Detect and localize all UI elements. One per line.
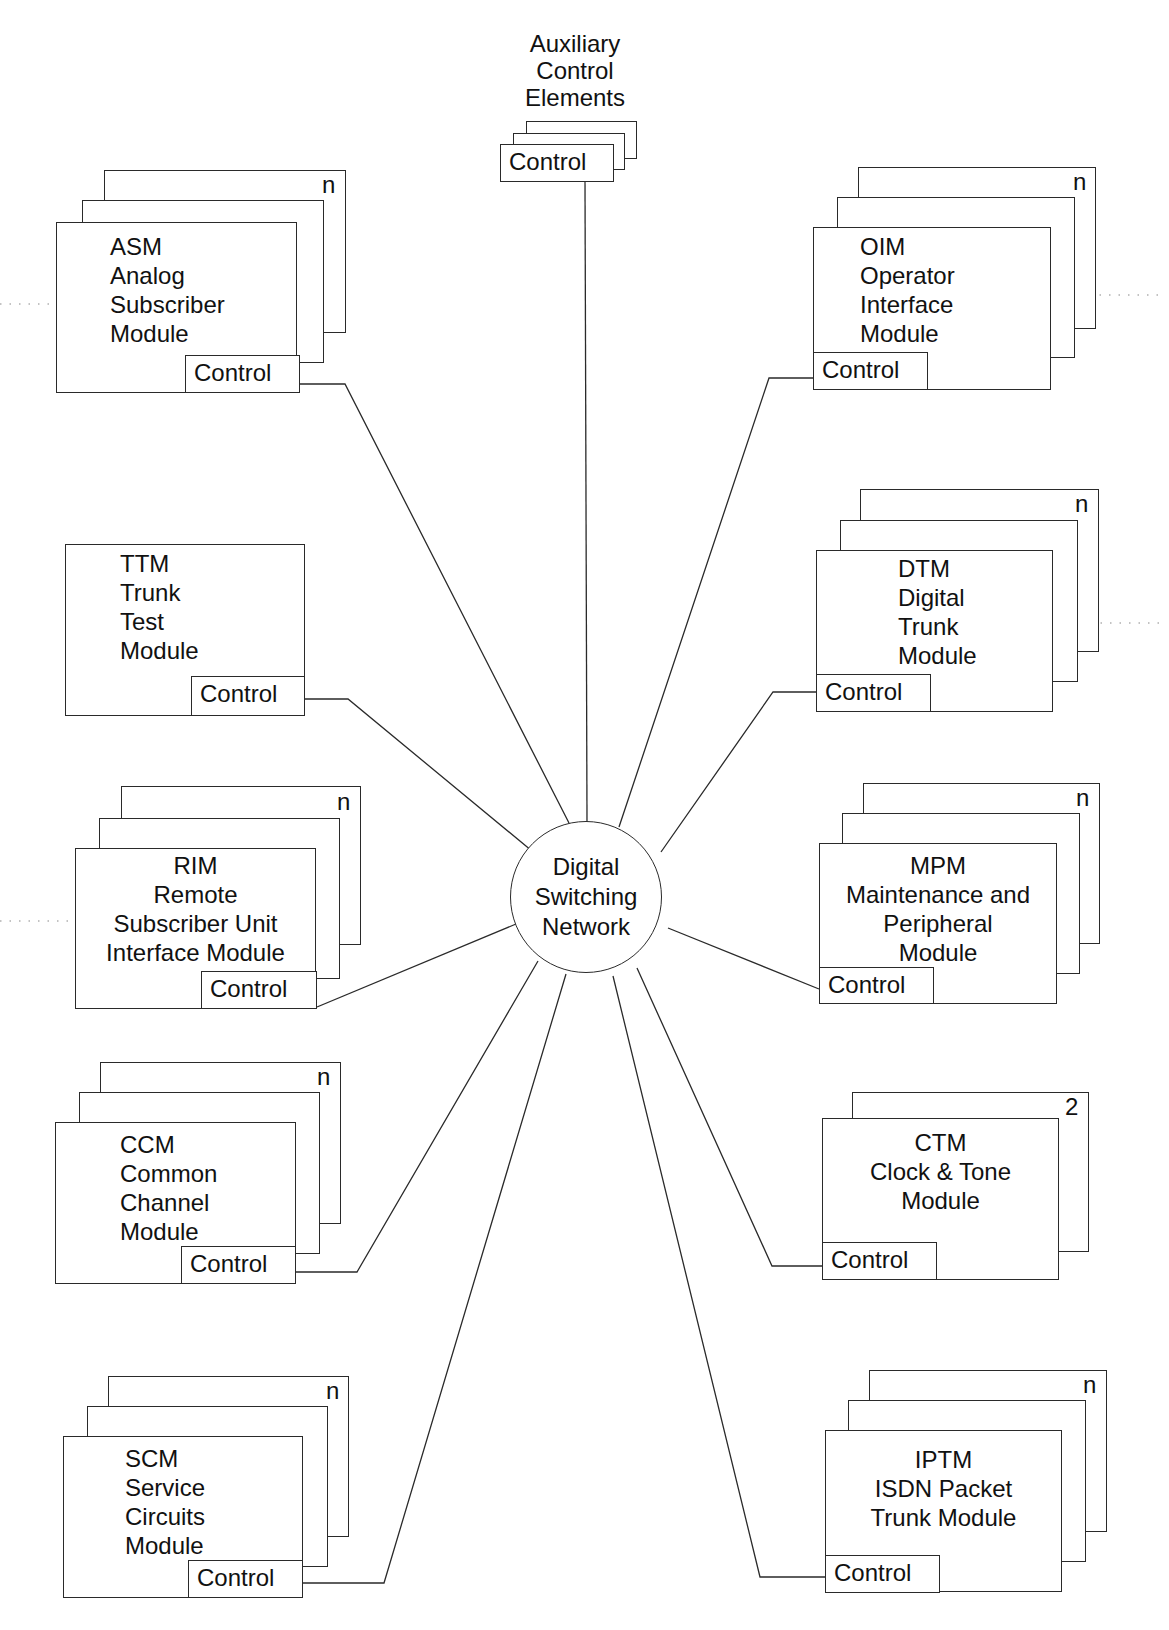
rim-instance-count: n bbox=[337, 789, 357, 815]
asm-control-box: Control bbox=[185, 355, 300, 393]
auxiliary-control-box: Control bbox=[500, 144, 614, 182]
ttm-title: TTM Trunk Test Module bbox=[120, 549, 230, 669]
rim-control-box: Control bbox=[201, 971, 317, 1009]
ctm-control-box: Control bbox=[822, 1242, 937, 1280]
scm-title: SCM Service Circuits Module bbox=[125, 1444, 245, 1564]
mpm-control-box: Control bbox=[819, 967, 934, 1004]
mpm-to-hub-connector bbox=[668, 928, 819, 989]
oim-control-box: Control bbox=[813, 352, 928, 390]
ctm-to-hub-connector bbox=[637, 968, 822, 1266]
ccm-instance-count: n bbox=[317, 1064, 337, 1090]
telephone-switch-architecture-diagram: Auxiliary Control ElementsControlnASM An… bbox=[0, 0, 1169, 1630]
iptm-to-hub-connector bbox=[613, 976, 825, 1577]
hub-label: Digital Switching Network bbox=[535, 852, 638, 942]
scm-control-box: Control bbox=[188, 1560, 303, 1598]
auxiliary-title: Auxiliary Control Elements bbox=[500, 30, 650, 115]
iptm-instance-count: n bbox=[1083, 1372, 1103, 1398]
ccm-title: CCM Common Channel Module bbox=[120, 1130, 240, 1250]
oim-title: OIM Operator Interface Module bbox=[860, 232, 990, 352]
digital-switching-network-hub: Digital Switching Network bbox=[510, 821, 662, 973]
oim-to-hub-connector bbox=[619, 378, 813, 827]
asm-instance-count: n bbox=[322, 172, 342, 198]
aux-to-hub-connector bbox=[585, 182, 587, 822]
ctm-title: CTM Clock & Tone Module bbox=[822, 1128, 1059, 1228]
dtm-to-hub-connector bbox=[661, 692, 816, 852]
mpm-title: MPM Maintenance and Peripheral Module bbox=[819, 851, 1057, 967]
asm-title: ASM Analog Subscriber Module bbox=[110, 232, 240, 352]
mpm-instance-count: n bbox=[1076, 785, 1096, 811]
rim-title: RIM Remote Subscriber Unit Interface Mod… bbox=[75, 851, 316, 971]
asm-to-hub-connector bbox=[300, 384, 569, 823]
ctm-instance-count: 2 bbox=[1065, 1094, 1085, 1120]
oim-instance-count: n bbox=[1073, 169, 1093, 195]
ccm-control-box: Control bbox=[181, 1246, 296, 1284]
scm-instance-count: n bbox=[326, 1378, 346, 1404]
ttm-control-box: Control bbox=[191, 676, 305, 716]
dtm-instance-count: n bbox=[1075, 491, 1095, 517]
iptm-title: IPTM ISDN Packet Trunk Module bbox=[825, 1445, 1062, 1545]
iptm-control-box: Control bbox=[825, 1555, 940, 1593]
dtm-title: DTM Digital Trunk Module bbox=[898, 554, 1018, 670]
dtm-control-box: Control bbox=[816, 674, 931, 712]
